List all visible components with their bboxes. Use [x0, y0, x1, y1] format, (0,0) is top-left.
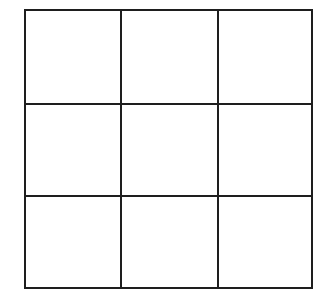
grid-cell-r1-c2 [121, 10, 218, 104]
grid-cell-r3-c3 [218, 196, 312, 288]
grid-cell-r3-c2 [121, 196, 218, 288]
grid-cell-r3-c1 [25, 196, 121, 288]
grid-diagram [0, 0, 327, 299]
grid-cell-r2-c1 [25, 104, 121, 196]
grid-cell-r1-c1 [25, 10, 121, 104]
grid-cell-r1-c3 [218, 10, 312, 104]
grid-cell-r2-c2 [121, 104, 218, 196]
grid-cell-r2-c3 [218, 104, 312, 196]
